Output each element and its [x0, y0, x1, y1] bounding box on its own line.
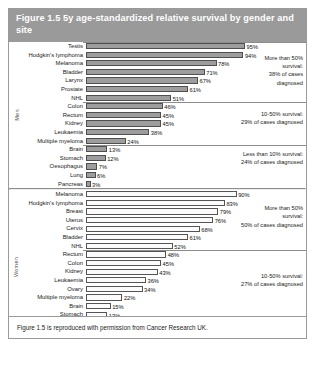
bar-row: Pancreas3%: [23, 180, 306, 189]
bar-row-label: Cervix: [23, 224, 86, 233]
bar-row-label: Prostate: [23, 85, 86, 94]
bar-row-track: 48%: [86, 250, 307, 259]
bar: [86, 120, 162, 126]
bar-row: Multiple myeloma22%: [23, 293, 306, 302]
band-annotation-line: 27% of cases diagnosed: [241, 280, 303, 288]
band-annotation-line: survival:: [264, 62, 303, 70]
axis-label-women-text: Women: [14, 257, 20, 277]
figure-caption-container: Figure 1.5 is reproduced with permission…: [8, 317, 307, 339]
bar-row-track: 61%: [86, 233, 307, 242]
bar: [86, 294, 123, 300]
bar: [86, 269, 158, 275]
bar-row: NHL51%: [23, 94, 306, 103]
bar: [86, 200, 225, 206]
bar: [86, 217, 214, 223]
bar-row-track: 45%: [86, 259, 307, 268]
band-annotation-line: Less than 10% survival:: [241, 150, 303, 158]
band-annotation-line: 50% of cases diagnosed: [241, 221, 303, 229]
bar-value-label: 3%: [91, 181, 101, 190]
bar-row-label: NHL: [23, 242, 86, 251]
bar: [86, 77, 199, 83]
bar-row-label: Colon: [23, 102, 86, 111]
bar-row-label: Multiple myeloma: [23, 293, 86, 302]
bar: [86, 260, 162, 266]
band-annotation-line: 38% of cases: [264, 70, 303, 78]
bar-row: Colon45%: [23, 259, 306, 268]
figure-caption: Figure 1.5 is reproduced with permission…: [17, 323, 298, 332]
axis-label-men-text: Men: [13, 109, 19, 120]
bar-row-label: Leukaemia: [23, 276, 86, 285]
bar-row-label: Breast: [23, 207, 86, 216]
bar-rows-women: Melanoma90%Hodgkin's lymphoma83%Breast79…: [23, 190, 306, 317]
bar: [86, 112, 162, 118]
bar-row-track: 15%: [86, 302, 307, 311]
gender-group-women: Women Melanoma90%Hodgkin's lymphoma83%Br…: [9, 190, 306, 317]
axis-label-women: Women: [10, 190, 23, 317]
band-annotation-line: 10-50% survival:: [241, 110, 303, 118]
bar-row-label: Larynx: [23, 76, 86, 85]
band-annotation-line: 24% of cases diagnosed: [241, 158, 303, 166]
band-divider: [83, 102, 306, 103]
bar-row-track: 22%: [86, 293, 307, 302]
band-annotation: Less than 10% survival:24% of cases diag…: [241, 150, 303, 166]
bar-row-label: Colon: [23, 259, 86, 268]
bar: [86, 277, 146, 283]
bar-row: Melanoma90%: [23, 190, 306, 199]
bar: [86, 163, 98, 169]
bar-row: Testis95%: [23, 42, 306, 51]
bar-row: Leukaemia38%: [23, 128, 306, 137]
bar-rows-men: Testis95%Hodgkin's lymphoma94%Melanoma78…: [23, 42, 306, 188]
figure-container: Figure 1.5 5y age-standardized relative …: [8, 8, 307, 346]
bar: [86, 243, 173, 249]
bar-row-track: 90%: [86, 190, 307, 199]
bar-row-label: Hodgkin's lymphoma: [23, 51, 86, 60]
band-annotation-line: survival:: [241, 212, 303, 220]
bar-row-label: Bladder: [23, 68, 86, 77]
band-annotation-line: More than 50%: [241, 204, 303, 212]
bar: [86, 208, 219, 214]
bar-row-label: Brain: [23, 145, 86, 154]
bar-row: Bladder61%: [23, 233, 306, 242]
bar-row: Lung6%: [23, 171, 306, 180]
bar: [86, 312, 108, 318]
bar-row-label: Pancreas: [23, 180, 86, 189]
bar: [86, 155, 106, 161]
band-annotation-line: 10-50% survival:: [241, 272, 303, 280]
bar: [86, 103, 163, 109]
bar-row-label: Kidney: [23, 119, 86, 128]
bar-row-label: Rectum: [23, 250, 86, 259]
band-annotation: More than 50%survival:50% of cases diagn…: [241, 204, 303, 229]
bar-row-track: 13%: [86, 310, 307, 317]
axis-label-men: Men: [10, 42, 23, 188]
band-annotation-line: diagnosed: [264, 79, 303, 87]
bar-row-label: Rectum: [23, 111, 86, 120]
bar: [86, 52, 244, 58]
bar: [86, 191, 237, 197]
bar-value-label: 13%: [107, 312, 120, 318]
bar: [86, 226, 200, 232]
bar-row: NHL52%: [23, 242, 306, 251]
bar: [86, 234, 188, 240]
bar-row-label: Oesophagus: [23, 162, 86, 171]
bar: [86, 86, 188, 92]
bar-row-track: 51%: [86, 94, 307, 103]
bar-row-label: Lung: [23, 171, 86, 180]
figure-title: Figure 1.5 5y age-standardized relative …: [8, 8, 307, 42]
chart-plot-area: Men Testis95%Hodgkin's lymphoma94%Melano…: [8, 42, 307, 317]
bar-row-label: Kidney: [23, 267, 86, 276]
bar: [86, 95, 172, 101]
bar-row-label: Ovary: [23, 285, 86, 294]
bar-row-track: 95%: [86, 42, 307, 51]
bar-row: Multiple myeloma24%: [23, 137, 306, 146]
bar-row-label: Testis: [23, 42, 86, 51]
bar-row-label: Hodgkin's lymphoma: [23, 199, 86, 208]
band-divider: [83, 145, 306, 146]
bar-row-label: Stomach: [23, 310, 86, 317]
bar: [86, 251, 167, 257]
bar-row-track: 52%: [86, 242, 307, 251]
bar-row-label: Bladder: [23, 233, 86, 242]
band-annotation: More than 50%survival:38% of casesdiagno…: [264, 54, 303, 87]
bar-row-track: 24%: [86, 137, 307, 146]
bar-row-label: NHL: [23, 94, 86, 103]
bar: [86, 129, 150, 135]
